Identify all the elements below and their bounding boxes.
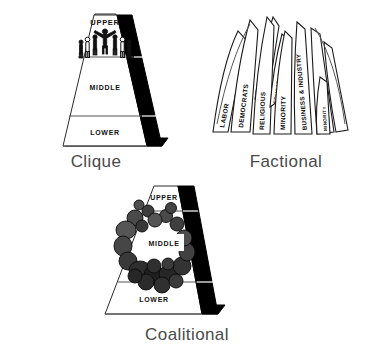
clique-tier-middle-label: MIDDLE	[89, 84, 120, 91]
clique-tier-lower-label: LOWER	[90, 129, 120, 136]
figure-clique: UPPER	[10, 4, 182, 174]
figurine-right-2	[120, 37, 125, 57]
coalitional-tier-upper-label: UPPER	[150, 194, 178, 201]
figurine-left-2	[85, 37, 90, 57]
factional-petal-minority-small[interactable]: MINORITY	[316, 77, 330, 134]
factional-petal-label-5: MINORITY	[279, 95, 287, 130]
figure-coalitional: UPPER MI	[92, 178, 282, 345]
figurine-right-3	[127, 40, 131, 58]
factional-petal-label-3: RELIGIOUS	[258, 91, 266, 130]
clique-caption: Clique	[10, 152, 182, 172]
coalitional-tier-middle-label: MIDDLE	[148, 240, 179, 247]
clique-pyramid-svg: UPPER	[10, 4, 182, 152]
figure-factional: LABOR DEMOCRATS SPECIAL INTERESTS RELIGI…	[200, 4, 372, 174]
coalitional-pyramid-svg: UPPER MI	[92, 178, 282, 323]
coalitional-caption: Coalitional	[92, 325, 282, 345]
figurine-left-3	[79, 40, 83, 58]
clique-tier-upper-label: UPPER	[90, 18, 119, 27]
factional-petal-business-industry[interactable]: BUSINESS & INDUSTRY	[294, 22, 312, 134]
factional-caption: Factional	[200, 152, 372, 172]
coalitional-tier-lower-label: LOWER	[139, 296, 169, 303]
factional-fan-svg: LABOR DEMOCRATS SPECIAL INTERESTS RELIGI…	[200, 4, 372, 152]
